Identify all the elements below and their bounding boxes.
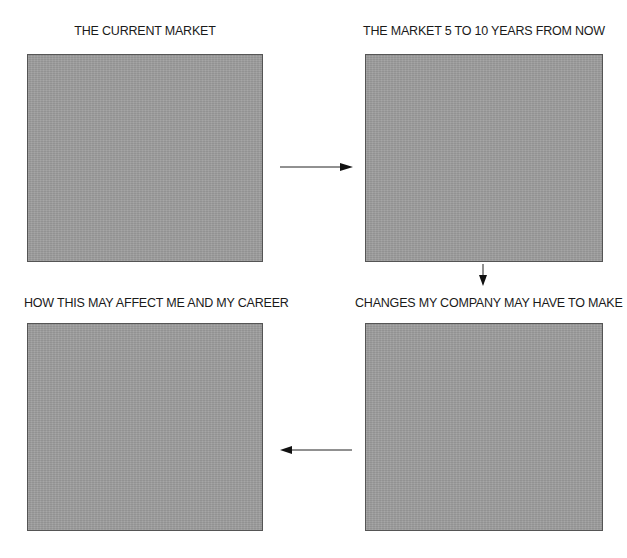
panel-current-box [27, 54, 263, 262]
panel-changes-title: CHANGES MY COMPANY MAY HAVE TO MAKE [355, 296, 613, 310]
arrow-down-icon [478, 264, 488, 286]
panel-future-title: THE MARKET 5 TO 10 YEARS FROM NOW [355, 24, 613, 38]
panel-changes-box [365, 323, 603, 531]
panel-current-title: THE CURRENT MARKET [27, 24, 263, 38]
panel-career-box [27, 323, 263, 531]
arrow-left-icon [280, 445, 354, 455]
panel-career-title: HOW THIS MAY AFFECT ME AND MY CAREER [24, 296, 269, 310]
arrow-right-icon [280, 162, 354, 172]
panel-future-box [365, 54, 603, 262]
